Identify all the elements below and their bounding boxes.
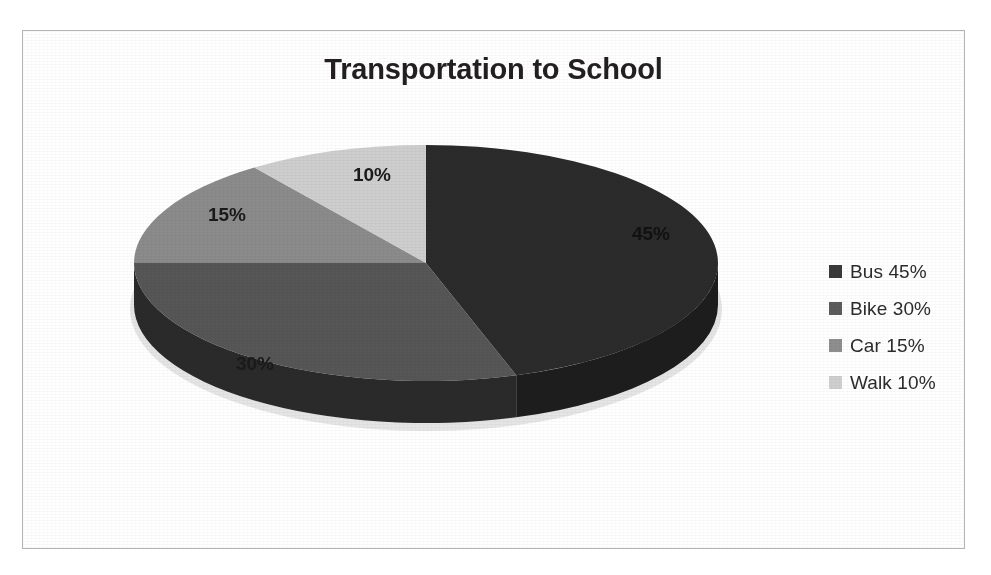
legend-label-car: Car 15% (850, 335, 925, 357)
slice-label-bike: 30% (236, 353, 274, 375)
slice-label-bus: 45% (632, 223, 670, 245)
chart-frame: Transportation to School 45% 30% 15% 10%… (22, 30, 965, 549)
legend-label-bike: Bike 30% (850, 298, 931, 320)
legend-item-bus[interactable]: Bus 45% (829, 253, 964, 290)
chart-legend: Bus 45% Bike 30% Car 15% Walk 10% (829, 253, 964, 401)
pie-chart-svg (23, 31, 966, 550)
legend-item-car[interactable]: Car 15% (829, 327, 964, 364)
legend-item-walk[interactable]: Walk 10% (829, 364, 964, 401)
legend-swatch-icon-walk (829, 376, 842, 389)
legend-item-bike[interactable]: Bike 30% (829, 290, 964, 327)
legend-swatch-icon-bike (829, 302, 842, 315)
legend-swatch-icon-car (829, 339, 842, 352)
pie-chart: 45% 30% 15% 10% (23, 31, 966, 550)
legend-label-bus: Bus 45% (850, 261, 927, 283)
legend-swatch-icon-bus (829, 265, 842, 278)
slice-label-car: 15% (208, 204, 246, 226)
slice-label-walk: 10% (353, 164, 391, 186)
legend-label-walk: Walk 10% (850, 372, 936, 394)
